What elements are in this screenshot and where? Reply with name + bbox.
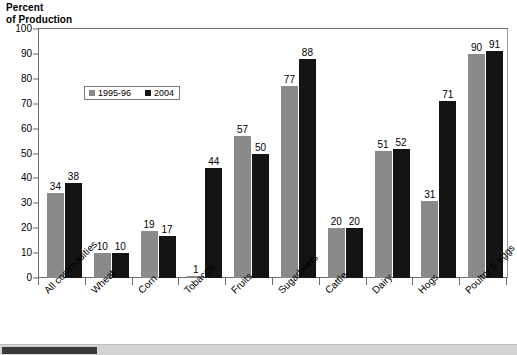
bar[interactable]: 88 (299, 59, 316, 278)
bar[interactable]: 51 (375, 151, 392, 278)
bar-value-label: 77 (284, 74, 295, 85)
horizontal-scrollbar[interactable] (0, 344, 517, 355)
x-tick-mark (459, 278, 460, 285)
bar-value-label: 19 (143, 219, 154, 230)
bar-value-label: 90 (471, 42, 482, 53)
bar-group: 7788 (281, 29, 316, 278)
bar[interactable]: 90 (468, 54, 485, 278)
bar-value-label: 20 (331, 216, 342, 227)
bar-group: 1917 (141, 29, 176, 278)
bar[interactable]: 50 (252, 154, 269, 279)
y-tick-mark (33, 128, 38, 129)
y-axis: 0102030405060708090100 (0, 20, 40, 285)
y-tick-mark (33, 228, 38, 229)
x-tick-mark (412, 278, 413, 285)
y-tick-mark (33, 103, 38, 104)
y-tick-label: 100 (15, 24, 32, 34)
bar-value-label: 51 (377, 139, 388, 150)
bar-value-label: 57 (237, 124, 248, 135)
gray-swatch (89, 90, 95, 96)
y-tick-mark (33, 178, 38, 179)
bar[interactable]: 34 (47, 193, 64, 278)
x-tick-mark (132, 278, 133, 285)
y-tick-mark (33, 203, 38, 204)
bar-value-label: 20 (349, 216, 360, 227)
bar-value-label: 52 (395, 137, 406, 148)
y-tick-label: 40 (21, 173, 32, 183)
bar-group: 1010 (94, 29, 129, 278)
bar-group: 144 (187, 29, 222, 278)
legend-item: 2004 (145, 89, 174, 98)
y-tick-label: 90 (21, 49, 32, 59)
bar-group: 5750 (234, 29, 269, 278)
bar[interactable]: 20 (346, 228, 363, 278)
bar-group: 3171 (421, 29, 456, 278)
y-tick-label: 70 (21, 99, 32, 109)
x-tick-mark (38, 278, 39, 285)
x-tick-mark (178, 278, 179, 285)
bar-value-label: 44 (208, 156, 219, 167)
bar[interactable]: 31 (421, 201, 438, 278)
bar-value-label: 91 (489, 39, 500, 50)
y-tick-label: 50 (21, 149, 32, 159)
bar-value-label: 38 (68, 171, 79, 182)
y-tick-mark (33, 253, 38, 254)
bar-value-label: 31 (424, 189, 435, 200)
x-tick-mark (319, 278, 320, 285)
y-tick-label: 0 (26, 273, 32, 283)
bar-value-label: 71 (442, 89, 453, 100)
scrollbar-thumb[interactable] (2, 347, 97, 354)
y-tick-label: 10 (21, 248, 32, 258)
bar[interactable]: 19 (141, 231, 158, 278)
black-swatch (145, 90, 151, 96)
x-tick-mark (272, 278, 273, 285)
bar-group: 3438 (47, 29, 82, 278)
bar-value-label: 17 (161, 224, 172, 235)
chart-legend: 1995-962004 (84, 86, 180, 100)
y-tick-mark (33, 153, 38, 154)
x-tick-mark (366, 278, 367, 285)
x-tick-mark (506, 278, 507, 285)
y-tick-mark (33, 78, 38, 79)
bar-value-label: 10 (115, 241, 126, 252)
bar-group: 2020 (328, 29, 363, 278)
bars-layer: 343810101917144575077882020515231719091 (39, 29, 507, 278)
bar[interactable]: 71 (439, 101, 456, 278)
bar-group: 9091 (468, 29, 503, 278)
bar-value-label: 34 (50, 181, 61, 192)
x-tick-mark (225, 278, 226, 285)
y-tick-mark (33, 29, 38, 30)
bar[interactable]: 52 (393, 149, 410, 278)
bar[interactable]: 77 (281, 86, 298, 278)
x-tick-mark (85, 278, 86, 285)
bar-chart: Percent of Production 010203040506070809… (0, 0, 517, 355)
bar-group: 5152 (375, 29, 410, 278)
bar[interactable]: 57 (234, 136, 251, 278)
y-tick-label: 60 (21, 124, 32, 134)
y-tick-label: 80 (21, 74, 32, 84)
bar-value-label: 88 (302, 47, 313, 58)
y-tick-mark (33, 53, 38, 54)
legend-item: 1995-96 (89, 89, 131, 98)
bar[interactable]: 91 (486, 51, 503, 278)
legend-label: 2004 (154, 89, 174, 98)
bar-value-label: 50 (255, 142, 266, 153)
bar[interactable]: 17 (159, 236, 176, 278)
y-tick-label: 20 (21, 223, 32, 233)
legend-label: 1995-96 (98, 89, 131, 98)
y-tick-label: 30 (21, 198, 32, 208)
